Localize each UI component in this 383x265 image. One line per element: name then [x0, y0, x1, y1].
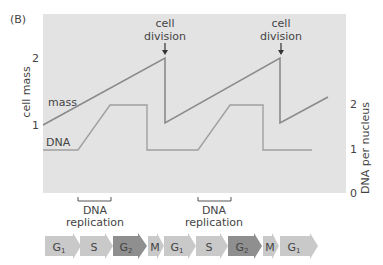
phase-g2: G2 [113, 233, 147, 259]
phase-m: M [148, 233, 164, 259]
phase-g1: G1 [280, 233, 318, 259]
replication1-bracket [78, 197, 111, 201]
phase-g2: G2 [228, 233, 262, 259]
svg-text:S: S [206, 241, 213, 254]
right-tick-2: 2 [350, 98, 357, 111]
right-tick-0: 0 [350, 187, 357, 200]
phase-g1: G1 [164, 233, 196, 259]
phase-m: M [263, 233, 279, 259]
mass-label: mass [48, 96, 77, 109]
dna-label: DNA [46, 136, 71, 149]
svg-text:S: S [91, 241, 98, 254]
left-tick-1: 1 [32, 119, 39, 132]
phase-g1: G1 [45, 233, 81, 259]
phase-s: S [80, 233, 113, 259]
phase-bar: G1 S G2 M G1 S G2 M [45, 233, 318, 259]
phase-s: S [196, 233, 228, 259]
division2-line1: cell [272, 17, 291, 30]
division1-line1: cell [156, 17, 175, 30]
svg-text:M: M [150, 241, 160, 254]
division1-line2: division [144, 30, 186, 43]
y-right-label: DNA per nucleus [359, 102, 372, 194]
right-tick-1: 1 [350, 143, 357, 156]
replication2-bracket [198, 197, 231, 201]
replication2-line2: replication [185, 216, 243, 229]
left-tick-2: 2 [32, 52, 39, 65]
cell-cycle-diagram: (B) 2 1 cell mass 2 1 0 DNA per nucleus … [0, 0, 383, 265]
division2-line2: division [260, 30, 302, 43]
y-left-label: cell mass [20, 66, 33, 118]
replication1-line2: replication [66, 216, 124, 229]
panel-label: (B) [10, 13, 26, 26]
svg-text:M: M [265, 241, 275, 254]
